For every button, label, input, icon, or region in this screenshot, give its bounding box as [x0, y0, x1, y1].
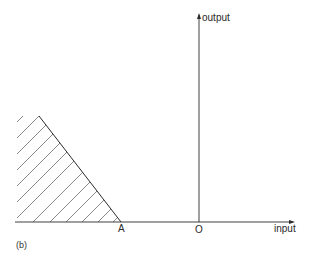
- y-axis-label: output: [202, 13, 230, 23]
- origin-label: O: [195, 225, 203, 235]
- diagram-canvas: [0, 0, 310, 258]
- hatched-region: [17, 85, 250, 222]
- point-a-label: A: [118, 224, 125, 234]
- x-axis-label: input: [274, 224, 296, 234]
- panel-label: (b): [16, 241, 27, 250]
- boundary-line: [39, 116, 121, 222]
- y-axis-arrow-icon: [197, 13, 201, 19]
